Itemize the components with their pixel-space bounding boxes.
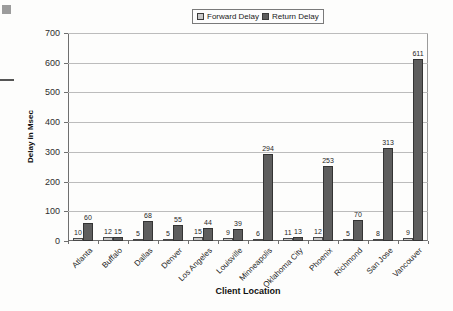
gridline xyxy=(68,92,428,93)
chart-legend: Forward Delay Return Delay xyxy=(192,9,324,24)
gridline xyxy=(68,63,428,64)
x-tick-label: Vancouver xyxy=(391,246,424,279)
y-tick-mark xyxy=(64,63,68,64)
bar-value-label: 15 xyxy=(108,228,128,236)
bar-return-minneapolis xyxy=(263,154,273,241)
bar-value-label: 60 xyxy=(78,214,98,222)
bar-forward-vancouver xyxy=(403,238,413,241)
x-tick-mark xyxy=(278,241,279,244)
y-tick-mark xyxy=(64,122,68,123)
x-tick-label: Buffalo xyxy=(100,246,124,270)
bar-forward-oklahoma-city xyxy=(283,238,293,241)
y-tick-mark xyxy=(64,152,68,153)
gridline xyxy=(68,211,428,212)
y-tick-label: 700 xyxy=(30,29,60,38)
x-tick-mark xyxy=(308,241,309,244)
bar-value-label: 611 xyxy=(408,50,428,58)
x-tick-mark xyxy=(248,241,249,244)
bar-value-label: 253 xyxy=(318,157,338,165)
x-tick-mark xyxy=(368,241,369,244)
bar-return-louisville xyxy=(233,229,243,241)
y-tick-mark xyxy=(64,211,68,212)
x-tick-mark xyxy=(68,241,69,244)
x-tick-mark xyxy=(128,241,129,244)
gridline xyxy=(68,33,428,34)
bar-value-label: 294 xyxy=(258,145,278,153)
bar-forward-denver xyxy=(163,239,173,241)
gridline xyxy=(68,152,428,153)
bar-forward-phoenix xyxy=(313,237,323,241)
x-tick-label: Denver xyxy=(160,246,185,271)
x-tick-mark xyxy=(98,241,99,244)
bar-return-los-angeles xyxy=(203,228,213,241)
scanned-chart-page: Forward Delay Return Delay Delay in Msec… xyxy=(0,0,453,311)
bar-return-dallas xyxy=(143,221,153,241)
bar-value-label: 44 xyxy=(198,219,218,227)
x-tick-label: San Jose xyxy=(364,246,394,276)
bar-forward-buffalo xyxy=(103,237,113,241)
bar-return-oklahoma-city xyxy=(293,237,303,241)
x-tick-mark xyxy=(398,241,399,244)
bar-value-label: 70 xyxy=(348,211,368,219)
bar-value-label: 55 xyxy=(168,216,188,224)
bar-forward-minneapolis xyxy=(253,239,263,241)
y-tick-label: 400 xyxy=(30,118,60,127)
x-tick-label: Dallas xyxy=(132,246,154,268)
x-tick-mark xyxy=(188,241,189,244)
x-axis-title: Client Location xyxy=(68,286,428,296)
bar-return-denver xyxy=(173,225,183,241)
y-tick-label: 200 xyxy=(30,178,60,187)
bar-value-label: 313 xyxy=(378,139,398,147)
return-delay-legend-label: Return Delay xyxy=(272,12,319,21)
x-tick-mark xyxy=(158,241,159,244)
gridline xyxy=(68,182,428,183)
bar-forward-louisville xyxy=(223,238,233,241)
bar-forward-los-angeles xyxy=(193,237,203,241)
x-tick-label: Richmond xyxy=(333,246,365,278)
y-tick-mark xyxy=(64,92,68,93)
x-tick-label: Atlanta xyxy=(70,246,94,270)
scan-artifact-line xyxy=(0,79,14,81)
x-tick-mark xyxy=(428,241,429,244)
bar-return-buffalo xyxy=(113,237,123,241)
gridline xyxy=(68,122,428,123)
bar-forward-dallas xyxy=(133,239,143,241)
bar-forward-atlanta xyxy=(73,238,83,241)
y-tick-mark xyxy=(64,182,68,183)
y-tick-label: 0 xyxy=(30,237,60,246)
y-tick-label: 100 xyxy=(30,207,60,216)
y-axis-title: Delay in Msec xyxy=(26,87,35,187)
x-tick-mark xyxy=(338,241,339,244)
bar-return-atlanta xyxy=(83,223,93,241)
y-tick-label: 300 xyxy=(30,148,60,157)
bar-return-phoenix xyxy=(323,166,333,241)
bar-forward-richmond xyxy=(343,239,353,241)
scan-artifact-square xyxy=(2,5,11,14)
return-delay-swatch xyxy=(262,13,269,20)
x-tick-label: Phoenix xyxy=(308,246,335,273)
y-tick-label: 600 xyxy=(30,59,60,68)
bar-return-vancouver xyxy=(413,59,423,241)
y-tick-label: 500 xyxy=(30,88,60,97)
x-tick-mark xyxy=(218,241,219,244)
bar-return-richmond xyxy=(353,220,363,241)
forward-delay-legend-label: Forward Delay xyxy=(207,12,259,21)
bar-value-label: 68 xyxy=(138,212,158,220)
bar-forward-san-jose xyxy=(373,239,383,241)
bar-value-label: 39 xyxy=(228,220,248,228)
y-tick-mark xyxy=(64,33,68,34)
plot-area xyxy=(68,33,428,241)
bar-value-label: 13 xyxy=(288,228,308,236)
x-tick-label: Louisville xyxy=(215,246,245,276)
forward-delay-swatch xyxy=(197,13,204,20)
bar-return-san-jose xyxy=(383,148,393,241)
